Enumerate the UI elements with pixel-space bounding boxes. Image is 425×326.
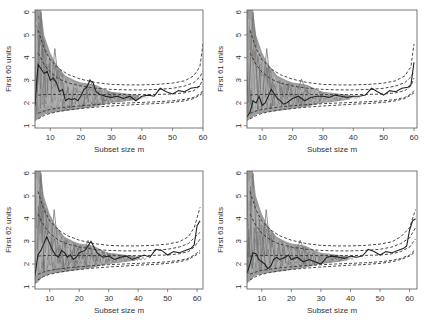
x-tick-label: 60 xyxy=(410,133,419,142)
x-tick-label: 30 xyxy=(316,294,325,303)
y-axis-title: First 60 units xyxy=(4,46,13,92)
x-tick-label: 50 xyxy=(379,133,388,142)
x-tick-label: 20 xyxy=(288,133,297,142)
plot-area xyxy=(35,10,203,121)
y-tick-label: 6 xyxy=(234,9,243,14)
x-axis: 102030405060 xyxy=(46,128,208,142)
x-tick-label: 50 xyxy=(168,133,177,142)
y-axis-title: First 63 units xyxy=(216,207,225,253)
y-tick-label: 3 xyxy=(22,78,31,83)
panel-bottom-left: First 62 units Subset size m 10203040506… xyxy=(4,170,203,315)
x-axis-title: Subset size m xyxy=(94,306,145,315)
y-axis: 123456 xyxy=(22,9,35,127)
x-tick-label: 50 xyxy=(376,294,385,303)
y-tick-label: 2 xyxy=(234,261,243,266)
y-tick-label: 3 xyxy=(234,78,243,83)
y-tick-label: 5 xyxy=(22,193,31,198)
x-tick-label: 30 xyxy=(318,133,327,142)
x-tick-label: 40 xyxy=(349,133,358,142)
x-tick-label: 30 xyxy=(107,133,116,142)
y-tick-label: 1 xyxy=(234,284,243,289)
y-tick-label: 4 xyxy=(234,216,243,221)
x-tick-label: 10 xyxy=(258,133,267,142)
x-tick-label: 60 xyxy=(193,294,202,303)
x-tick-label: 20 xyxy=(287,294,296,303)
panel-top-right: First 61 units Subset size m 10203040506… xyxy=(216,9,419,154)
y-tick-label: 3 xyxy=(234,239,243,244)
x-tick-label: 10 xyxy=(46,133,55,142)
y-axis-title: First 61 units xyxy=(216,46,225,92)
x-axis-title: Subset size m xyxy=(94,145,145,154)
x-tick-label: 50 xyxy=(163,294,172,303)
y-tick-label: 1 xyxy=(22,284,31,289)
x-tick-label: 40 xyxy=(137,133,146,142)
plot-area xyxy=(35,171,200,285)
y-tick-label: 1 xyxy=(234,123,243,128)
x-tick-label: 20 xyxy=(75,294,84,303)
y-tick-label: 4 xyxy=(234,55,243,60)
x-tick-label: 20 xyxy=(76,133,85,142)
y-tick-label: 6 xyxy=(22,170,31,175)
figure: First 60 units Subset size m 10203040506… xyxy=(0,0,425,326)
x-tick-label: 10 xyxy=(45,294,54,303)
y-tick-label: 3 xyxy=(22,239,31,244)
x-tick-label: 60 xyxy=(405,294,414,303)
x-tick-label: 10 xyxy=(257,294,266,303)
y-tick-label: 2 xyxy=(22,100,31,105)
y-tick-label: 6 xyxy=(22,9,31,14)
y-tick-label: 2 xyxy=(22,261,31,266)
y-tick-label: 5 xyxy=(22,32,31,37)
y-tick-label: 2 xyxy=(234,100,243,105)
y-tick-label: 4 xyxy=(22,216,31,221)
x-axis: 102030405060 xyxy=(45,289,202,303)
x-axis: 102030405060 xyxy=(258,128,419,142)
y-tick-label: 4 xyxy=(22,55,31,60)
y-axis: 123456 xyxy=(22,170,35,288)
panel-bottom-right: First 63 units Subset size m 10203040506… xyxy=(216,170,417,315)
x-tick-label: 30 xyxy=(104,294,113,303)
x-tick-label: 40 xyxy=(346,294,355,303)
y-axis: 123456 xyxy=(234,9,247,127)
y-tick-label: 5 xyxy=(234,32,243,37)
x-tick-label: 60 xyxy=(199,133,208,142)
x-axis-title: Subset size m xyxy=(307,306,358,315)
y-axis-title: First 62 units xyxy=(4,207,13,253)
plot-area xyxy=(247,171,416,283)
x-tick-label: 40 xyxy=(134,294,143,303)
trajectory-band xyxy=(35,171,135,285)
plot-area xyxy=(247,10,414,121)
y-axis: 123456 xyxy=(234,170,247,288)
y-tick-label: 6 xyxy=(234,170,243,175)
y-tick-label: 1 xyxy=(22,123,31,128)
x-axis-title: Subset size m xyxy=(307,145,358,154)
y-tick-label: 5 xyxy=(234,193,243,198)
x-axis: 102030405060 xyxy=(257,289,414,303)
panel-top-left: First 60 units Subset size m 10203040506… xyxy=(4,9,208,154)
